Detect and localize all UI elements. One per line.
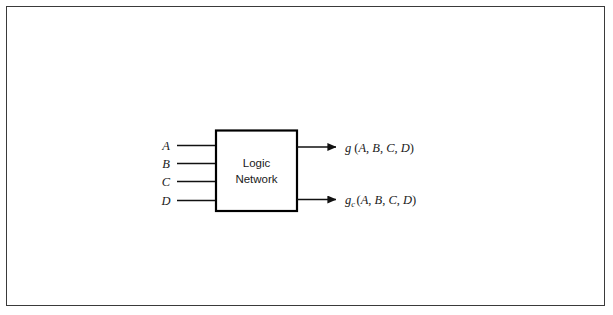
output-wires: [297, 147, 336, 200]
input-label-d: D: [160, 194, 170, 208]
input-label-b: B: [162, 157, 170, 171]
output-gc-subscript: c: [351, 199, 355, 209]
output-g-paren-close: ): [410, 141, 414, 155]
output-g-arg-a: A: [357, 141, 366, 155]
output-g-func: g: [345, 141, 351, 155]
input-label-a: A: [161, 139, 170, 153]
input-labels: A B C D: [160, 139, 170, 208]
output-gc-arg-a: A: [360, 193, 369, 207]
figure-root: A B C D Logic Network g(A, B, C, D) gc(A…: [0, 0, 613, 315]
input-wires: [177, 146, 216, 201]
output-label-g: g(A, B, C, D): [345, 141, 414, 155]
logic-network-label-line2: Network: [235, 173, 277, 185]
output-gc-paren-close: ): [412, 193, 416, 207]
output-g-arg-d: D: [400, 141, 410, 155]
input-label-c: C: [162, 175, 171, 189]
logic-network-block: [216, 131, 297, 212]
output-label-gc: gc(A, B, C, D): [345, 193, 416, 209]
logic-network-diagram: A B C D Logic Network g(A, B, C, D) gc(A…: [0, 0, 613, 315]
logic-network-label-line1: Logic: [243, 157, 271, 169]
output-gc-arg-d: D: [402, 193, 412, 207]
